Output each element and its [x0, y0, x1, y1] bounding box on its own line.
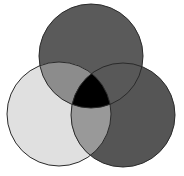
venn-diagram	[0, 0, 184, 176]
venn-svg	[0, 0, 184, 176]
